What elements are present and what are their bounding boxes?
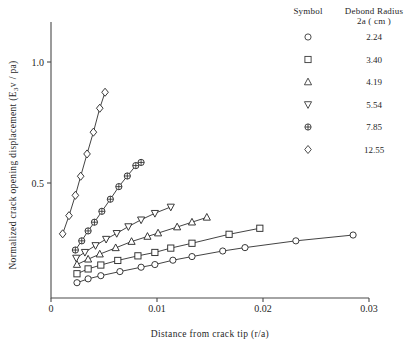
y-tick-label: 1.0	[32, 57, 45, 68]
data-point-circle	[170, 257, 176, 263]
data-point-triangle-down	[151, 210, 158, 217]
data-point-triangle-down	[73, 255, 80, 262]
data-curves	[59, 88, 356, 286]
data-point-diamond	[77, 172, 84, 180]
data-point-circle-cross	[72, 247, 78, 253]
x-axis-title: Distance from crack tip (r/a)	[151, 329, 269, 340]
data-point-diamond	[90, 128, 97, 136]
y-axis-title: Normalized crack opening displacement (E…	[8, 60, 20, 269]
data-point-square	[135, 253, 141, 259]
data-point-square	[152, 249, 158, 255]
data-point-triangle-down	[103, 236, 110, 243]
data-point-triangle-down	[81, 249, 88, 256]
data-point-diamond	[72, 191, 79, 199]
data-point-circle	[189, 253, 195, 259]
data-point-triangle-up	[304, 78, 311, 85]
x-tick-label: 0.03	[360, 303, 378, 314]
legend-header-value-line1: Debond Radius	[345, 6, 404, 16]
data-point-triangle-up	[203, 213, 210, 220]
data-point-circle	[117, 268, 123, 274]
data-point-circle	[350, 232, 356, 238]
tick-labels: 00.010.020.030.51.0	[32, 57, 378, 315]
data-point-square	[168, 245, 174, 251]
data-point-diamond	[84, 150, 91, 158]
legend-value-label: 7.85	[366, 122, 382, 132]
legend-value-label: 12.55	[364, 145, 385, 155]
axes	[47, 22, 369, 302]
legend-row: 3.40	[305, 55, 382, 65]
legend-row: 2.24	[305, 32, 382, 42]
legend-value-label: 5.54	[366, 100, 382, 110]
data-point-triangle-down	[304, 102, 311, 109]
data-point-square	[85, 266, 91, 272]
series-12.55	[59, 88, 108, 238]
data-point-square	[305, 56, 311, 62]
series-3.40	[74, 225, 263, 277]
data-point-circle-cross	[99, 208, 105, 214]
legend: SymbolDebond Radius2a ( cm )2.243.404.19…	[293, 6, 403, 155]
data-point-circle	[242, 245, 248, 251]
data-point-triangle-down	[138, 217, 145, 224]
legend-header-symbol: Symbol	[293, 6, 323, 16]
data-point-triangle-up	[85, 255, 92, 262]
data-point-diamond	[96, 104, 103, 112]
data-point-circle-cross	[138, 159, 144, 165]
data-point-diamond	[305, 145, 312, 153]
legend-row: 12.55	[305, 145, 385, 155]
data-point-square	[115, 257, 121, 263]
data-point-triangle-down	[92, 243, 99, 250]
data-point-circle	[138, 264, 144, 270]
data-point-circle-cross	[79, 238, 85, 244]
data-point-triangle-down	[125, 224, 132, 231]
data-point-square	[74, 271, 80, 277]
y-tick-label: 0.5	[32, 178, 45, 189]
data-point-circle	[293, 238, 299, 244]
data-point-circle	[98, 273, 104, 279]
chart-canvas: 00.010.020.030.51.0 SymbolDebond Radius2…	[0, 0, 417, 344]
data-point-square	[226, 231, 232, 237]
data-point-circle	[74, 280, 80, 286]
data-point-circle	[85, 276, 91, 282]
data-point-circle-cross	[305, 124, 311, 130]
data-point-circle-cross	[107, 196, 113, 202]
data-point-circle-cross	[91, 219, 97, 225]
data-point-diamond	[66, 212, 73, 220]
legend-row: 5.54	[304, 100, 382, 110]
legend-value-label: 2.24	[366, 32, 382, 42]
data-point-circle	[305, 34, 311, 40]
x-tick-label: 0	[49, 303, 54, 314]
legend-value-label: 3.40	[366, 55, 382, 65]
data-point-square	[189, 240, 195, 246]
legend-value-label: 4.19	[366, 77, 382, 87]
x-tick-label: 0.02	[254, 303, 272, 314]
data-point-diamond	[102, 88, 109, 96]
data-point-square	[257, 225, 263, 231]
legend-row: 4.19	[304, 77, 382, 87]
data-point-circle-cross	[116, 184, 122, 190]
data-point-circle-cross	[124, 173, 130, 179]
data-point-circle	[220, 248, 226, 254]
data-point-triangle-up	[73, 261, 80, 268]
chart-page: 00.010.020.030.51.0 SymbolDebond Radius2…	[0, 0, 417, 344]
data-point-diamond	[59, 230, 66, 238]
data-point-circle	[152, 261, 158, 267]
legend-header-value-line2: 2a ( cm )	[357, 16, 391, 26]
x-tick-label: 0.01	[148, 303, 166, 314]
data-point-triangle-down	[113, 231, 120, 238]
legend-row: 7.85	[305, 122, 382, 132]
data-point-circle-cross	[85, 228, 91, 234]
data-point-square	[98, 262, 104, 268]
